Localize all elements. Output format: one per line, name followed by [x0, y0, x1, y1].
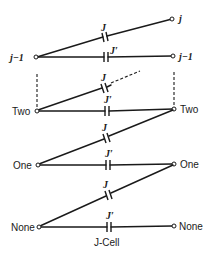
node-none-right	[172, 224, 176, 228]
horizontal-wire	[109, 109, 173, 111]
horizontal-wire	[108, 56, 172, 57]
capacitor-plate	[109, 190, 112, 199]
label-J: J	[102, 179, 109, 190]
horizontal-wire	[111, 226, 172, 227]
label-J: J	[100, 22, 107, 33]
capacitor-plate	[107, 133, 110, 142]
label-J: J	[101, 122, 108, 133]
node-none-left	[37, 225, 41, 229]
label-J-prime: J′	[104, 148, 113, 159]
label-one-left: One	[13, 160, 32, 171]
node-j-right	[170, 17, 174, 21]
horizontal-wire	[110, 164, 172, 165]
label-none-right: None	[179, 221, 203, 232]
capacitor-plate	[102, 33, 104, 42]
diagonal-wire	[40, 196, 106, 226]
level-one: One One J′	[13, 148, 199, 171]
label-two-left: Two	[12, 106, 31, 117]
label-jm1-left: j−1	[8, 52, 24, 63]
diagonal-wire	[107, 19, 172, 36]
diagonal-wire	[109, 110, 173, 136]
caption-j-cell: J-Cell	[94, 237, 120, 248]
node-one-left	[36, 163, 40, 167]
label-J-prime: J′	[109, 45, 118, 56]
node-jm1-left	[34, 55, 38, 59]
level-none: None None J′ J-Cell	[11, 210, 203, 248]
node-jm1-right	[171, 54, 175, 58]
label-two-right: Two	[180, 104, 199, 115]
diagonal-wire	[38, 88, 102, 110]
diagonal-wire	[107, 85, 111, 87]
label-J-prime: J′	[103, 94, 112, 105]
label-one-right: One	[180, 159, 199, 170]
level-j-minus-1: j j−1 j−1 J J′	[8, 13, 193, 63]
node-two-left	[35, 109, 39, 113]
label-j: j	[177, 13, 182, 24]
diagonal-wire	[111, 165, 173, 193]
label-J: J	[100, 72, 107, 83]
label-J-prime: J′	[105, 210, 114, 221]
label-jm1-right: j−1	[177, 51, 193, 62]
j-cell-diagram: j j−1 j−1 J J′ Two Two J J′ J	[0, 0, 212, 255]
diagonal-wire	[39, 139, 104, 164]
label-none-left: None	[11, 222, 35, 233]
dashed-diagonal	[111, 71, 140, 83]
diagonal-wire	[37, 37, 103, 57]
